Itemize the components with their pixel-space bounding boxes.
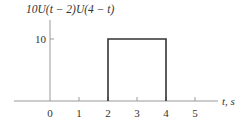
x-tick-label: 0: [47, 107, 53, 119]
pulse-chart: 012345 10 10U(t − 2)U(4 − t) t, s: [0, 0, 244, 123]
series-line-pulse: [108, 39, 166, 101]
x-tick-label: 5: [192, 107, 198, 119]
y-tick-label: 10: [35, 33, 47, 45]
x-axis-label: t, s: [222, 95, 235, 107]
x-tick-label: 1: [76, 107, 82, 119]
x-tick-label: 2: [105, 107, 111, 119]
x-tick-label: 4: [163, 107, 169, 119]
y-axis-label: 10U(t − 2)U(4 − t): [26, 3, 115, 16]
x-tick-label: 3: [134, 107, 140, 119]
